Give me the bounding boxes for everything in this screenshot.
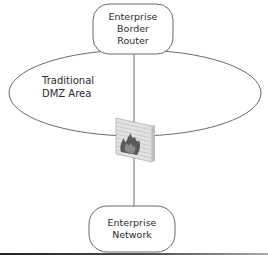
label-line: Enterprise xyxy=(89,217,175,229)
label-line: DMZ Area xyxy=(42,87,94,100)
dmz-area-label: Traditional DMZ Area xyxy=(42,74,94,100)
enterprise-network-label: Enterprise Network xyxy=(89,217,175,241)
label-line: Enterprise xyxy=(93,11,173,23)
label-line: Border xyxy=(93,23,173,35)
firewall-icon xyxy=(116,118,155,162)
label-line: Traditional xyxy=(42,74,94,87)
label-line: Network xyxy=(89,229,175,241)
label-line: Router xyxy=(93,35,173,47)
border-router-label: Enterprise Border Router xyxy=(93,11,173,47)
baseline-rule xyxy=(0,253,268,255)
